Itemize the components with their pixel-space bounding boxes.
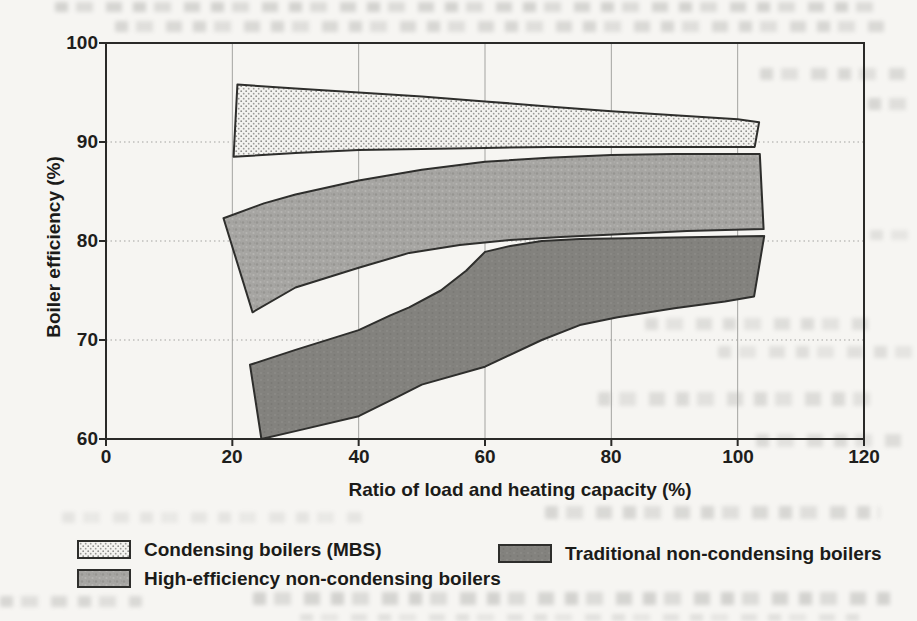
legend-item-high-efficiency: High-efficiency non-condensing boilers <box>77 569 501 589</box>
x-tick-label: 40 <box>327 447 391 467</box>
scanned-page: 100 90 80 70 60 0 20 40 60 80 100 120 Bo… <box>0 0 917 621</box>
legend-swatch-dark-gray <box>498 544 552 563</box>
x-axis-title: Ratio of load and heating capacity (%) <box>320 479 720 501</box>
x-tick-label: 0 <box>74 447 138 467</box>
y-tick-label: 60 <box>46 429 98 449</box>
legend-label: High-efficiency non-condensing boilers <box>144 569 501 589</box>
x-tick-label: 100 <box>706 447 770 467</box>
x-tick-label: 20 <box>200 447 264 467</box>
legend-label: Condensing boilers (MBS) <box>144 540 382 560</box>
legend-label: Traditional non-condensing boilers <box>565 544 882 564</box>
legend-swatch-medium-textured <box>77 569 131 588</box>
x-tick-label: 60 <box>453 447 517 467</box>
legend-swatch-light-dotted <box>77 540 131 559</box>
y-tick-label: 100 <box>46 33 98 53</box>
x-tick-label: 120 <box>832 447 896 467</box>
y-axis-title: Boiler efficiency (%) <box>43 97 65 397</box>
legend-item-condensing: Condensing boilers (MBS) <box>77 540 382 560</box>
boiler-efficiency-chart <box>0 0 917 621</box>
band-condensing-boilers <box>234 85 760 157</box>
legend-item-traditional: Traditional non-condensing boilers <box>498 544 882 564</box>
x-tick-label: 80 <box>579 447 643 467</box>
